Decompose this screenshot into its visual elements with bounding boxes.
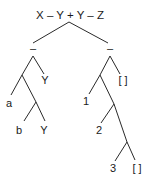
- leaf-right-nil1: [ ]: [118, 74, 127, 86]
- left-minus-node: –: [30, 42, 37, 54]
- edge-left-to-cons1: [22, 56, 33, 75]
- leaf-a: a: [6, 97, 13, 109]
- edge-cons1-to-1: [89, 75, 100, 94]
- leaf-b: b: [16, 124, 22, 136]
- edge-cons3-to-3: [115, 142, 127, 161]
- edge-cons3-to-nil: [127, 142, 135, 160]
- leaf-1: 1: [83, 95, 89, 107]
- edge-cons2-to-2: [101, 104, 114, 123]
- edge-cons1-to-a: [11, 75, 22, 95]
- edge-right-to-nil: [110, 56, 120, 74]
- edge-cons2-to-cons3: [114, 104, 127, 142]
- edge-cons1-to-cons2-right: [100, 75, 114, 104]
- leaf-left-y2: Y: [40, 124, 48, 136]
- edge-cons2-to-y: [36, 102, 45, 121]
- edge-root-right: [69, 22, 108, 43]
- root-label: X – Y + Y – Z: [36, 9, 104, 21]
- edge-cons2-to-b: [24, 102, 36, 121]
- edge-right-to-cons1: [100, 56, 110, 75]
- leaf-3: 3: [110, 162, 116, 174]
- parse-tree-diagram: X – Y + Y – Z – Y a b Y – [ ] 1 2 3 [ ]: [0, 0, 150, 191]
- edge-root-left: [33, 22, 69, 43]
- right-minus-node: –: [107, 42, 114, 54]
- edge-cons1-to-cons2: [22, 75, 36, 102]
- leaf-left-y: Y: [41, 74, 49, 86]
- leaf-right-nil2: [ ]: [132, 162, 141, 174]
- edge-left-to-y: [33, 56, 44, 74]
- leaf-2: 2: [96, 124, 102, 136]
